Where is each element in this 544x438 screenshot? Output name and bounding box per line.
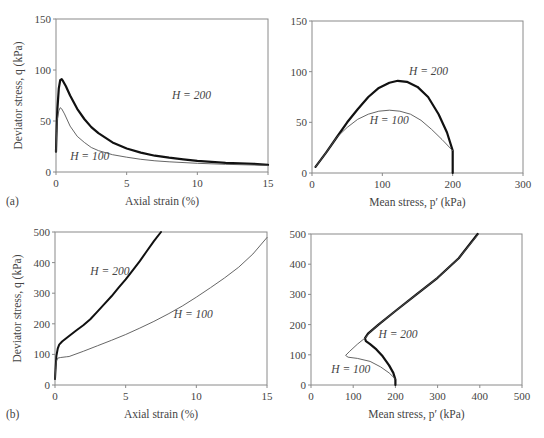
x-tick-label: 300	[429, 390, 446, 402]
x-tick-label: 100	[374, 178, 391, 190]
y-axis-label: Deviator stress, q (kPa)	[11, 254, 24, 362]
x-axis-label: Axial strain (%)	[125, 195, 199, 208]
x-tick-label: 0	[53, 177, 59, 189]
y-tick-label: 0	[46, 166, 52, 178]
x-tick-label: 200	[444, 178, 461, 190]
y-tick-label: 200	[34, 318, 51, 330]
x-tick-label: 0	[308, 390, 314, 402]
chart-panel-a-right: 0100200300050100150Mean stress, p′ (kPa)…	[291, 15, 532, 209]
plot-frame	[55, 232, 267, 385]
x-tick-label: 0	[309, 178, 315, 190]
y-tick-label: 50	[296, 116, 308, 128]
chart-panel-a-left: 051015050100150Axial strain (%)Deviator …	[6, 13, 274, 208]
series-line-h-200	[316, 81, 453, 173]
x-axis-label: Axial strain (%)	[124, 408, 198, 421]
x-tick-label: 5	[123, 390, 129, 402]
chart-panel-b-left: 0510150100200300400500Axial strain (%)De…	[6, 226, 273, 421]
y-tick-label: 150	[35, 13, 52, 25]
y-tick-label: 200	[290, 319, 307, 331]
x-tick-label: 10	[191, 390, 203, 402]
plot-frame	[312, 21, 523, 173]
series-label: H = 200	[171, 89, 211, 101]
y-tick-label: 300	[34, 287, 51, 299]
x-tick-label: 10	[192, 177, 204, 189]
x-tick-label: 15	[262, 390, 274, 402]
x-tick-label: 400	[472, 390, 489, 402]
chart-panel-b-right: 01002003004005000100200300400500Mean str…	[290, 228, 531, 421]
series-line-h-100	[55, 238, 267, 379]
panel-tag: (a)	[6, 195, 19, 208]
y-tick-label: 100	[34, 348, 51, 360]
series-line-h-200	[365, 234, 478, 385]
x-axis-label: Mean stress, p′ (kPa)	[368, 408, 465, 421]
series-line-h-200	[55, 232, 161, 379]
x-tick-label: 15	[263, 177, 275, 189]
x-tick-label: 200	[387, 390, 404, 402]
x-tick-label: 5	[124, 177, 130, 189]
y-tick-label: 400	[34, 257, 51, 269]
series-label: H = 200	[408, 65, 448, 77]
y-axis-label: Deviator stress, q (kPa)	[12, 41, 25, 149]
x-axis-label: Mean stress, p′ (kPa)	[369, 196, 466, 209]
x-tick-label: 100	[345, 390, 362, 402]
series-label: H = 100	[69, 150, 109, 162]
y-tick-label: 150	[291, 15, 308, 27]
y-tick-label: 50	[40, 115, 52, 127]
series-label: H = 200	[89, 265, 129, 277]
y-tick-label: 500	[290, 228, 307, 240]
y-tick-label: 500	[34, 226, 51, 238]
x-tick-label: 300	[515, 178, 532, 190]
y-tick-label: 0	[301, 379, 307, 391]
x-tick-label: 500	[514, 390, 531, 402]
series-label: H = 100	[173, 308, 213, 320]
series-label: H = 100	[369, 114, 409, 126]
figure: 051015050100150Axial strain (%)Deviator …	[0, 0, 544, 438]
y-tick-label: 300	[290, 288, 307, 300]
series-label: H = 200	[378, 328, 418, 340]
y-tick-label: 100	[291, 66, 308, 78]
x-tick-label: 0	[52, 390, 58, 402]
series-label: H = 100	[330, 363, 370, 375]
y-tick-label: 100	[35, 64, 52, 76]
panel-tag: (b)	[6, 408, 20, 421]
y-tick-label: 0	[302, 167, 308, 179]
y-tick-label: 400	[290, 258, 307, 270]
y-tick-label: 100	[290, 349, 307, 361]
y-tick-label: 0	[45, 379, 51, 391]
series-line-h-100	[346, 234, 479, 379]
